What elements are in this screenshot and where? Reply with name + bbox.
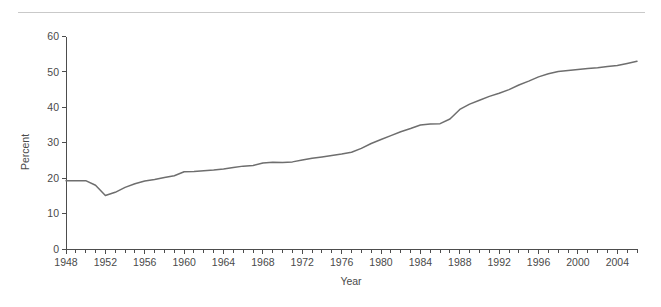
x-axis-tick-label: 1996 <box>527 256 551 268</box>
y-axis-title: Percent <box>19 134 31 170</box>
y-axis-tick-label: 40 <box>47 101 59 113</box>
x-axis-tick-label: 1988 <box>448 256 472 268</box>
y-axis-tick-label: 50 <box>47 66 59 78</box>
x-axis-tick-label: 1980 <box>369 256 393 268</box>
data-series-line <box>66 61 637 195</box>
x-axis-tick-label: 1992 <box>487 256 511 268</box>
x-axis-tick-label: 1960 <box>172 256 196 268</box>
y-axis-ticks <box>62 37 66 250</box>
x-axis-tick-label: 1952 <box>94 256 118 268</box>
chart-figure: 0102030405060 19481952195619601964196819… <box>0 0 661 307</box>
x-axis-tick-label: 1964 <box>212 256 236 268</box>
x-axis-tick-label: 1976 <box>330 256 354 268</box>
y-axis-tick-label: 30 <box>47 136 59 148</box>
x-axis-tick-label: 1972 <box>291 256 315 268</box>
x-axis-tick-label: 1984 <box>409 256 433 268</box>
x-axis: 1948195219561960196419681972197619801984… <box>54 249 637 268</box>
x-axis-tick-label: 2004 <box>606 256 630 268</box>
x-axis-tick-label: 2000 <box>566 256 590 268</box>
x-axis-tick-label: 1948 <box>54 256 78 268</box>
y-axis-tick-label: 20 <box>47 172 59 184</box>
y-axis-tick-label: 60 <box>47 30 59 42</box>
x-axis-tick-label: 1968 <box>251 256 275 268</box>
x-axis-tick-labels: 1948195219561960196419681972197619801984… <box>54 256 629 268</box>
x-axis-title: Year <box>340 275 362 287</box>
line-chart-plot: 0102030405060 19481952195619601964196819… <box>0 0 661 307</box>
y-axis-tick-label: 10 <box>47 207 59 219</box>
y-axis-tick-labels: 0102030405060 <box>47 30 59 255</box>
x-axis-tick-label: 1956 <box>133 256 157 268</box>
x-axis-minor-ticks <box>66 249 637 254</box>
y-axis-tick-label: 0 <box>53 243 59 255</box>
y-axis: 0102030405060 <box>47 30 66 255</box>
